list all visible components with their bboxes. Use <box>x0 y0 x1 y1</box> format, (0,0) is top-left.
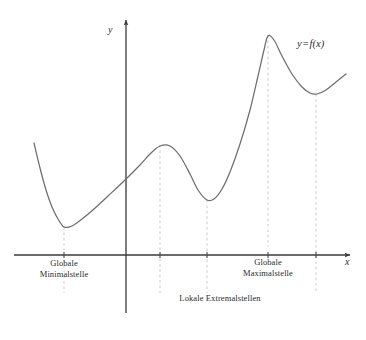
global-maximum-annotation: Globale Maximalstelle <box>218 257 318 278</box>
y-axis-label: y <box>108 24 112 35</box>
local-extrema-annotation: Lokale Extremalstellen <box>150 293 290 304</box>
x-axis-label: x <box>345 256 349 267</box>
curve-equation-operator: = <box>302 38 310 49</box>
global-minimum-annotation: Globale Minimalstelle <box>14 258 114 279</box>
curve-equation-rhs: f(x) <box>310 38 325 49</box>
curve-equation-label: y=f(x) <box>297 38 324 49</box>
plot-canvas <box>0 0 366 340</box>
function-graph-figure: y x y=f(x) Globale Minimalstelle Globale… <box>0 0 366 340</box>
curve-equation-lhs: y <box>297 38 302 49</box>
function-curve <box>34 35 346 227</box>
guide-lines <box>64 35 316 293</box>
